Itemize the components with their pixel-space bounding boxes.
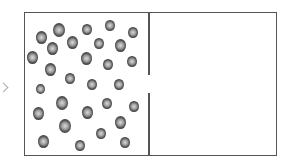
- gas-particle: [103, 59, 113, 71]
- gas-particle: [114, 79, 124, 91]
- gas-particle: [120, 137, 130, 149]
- gas-particle: [47, 42, 58, 55]
- gas-particle: [27, 51, 38, 64]
- gas-particle: [38, 135, 49, 148]
- gas-particle: [82, 106, 93, 119]
- gas-particle: [65, 73, 75, 85]
- gas-particle: [75, 140, 85, 152]
- gas-particle: [96, 128, 106, 140]
- gas-particle: [127, 56, 137, 68]
- gas-particle: [67, 36, 78, 49]
- gas-particle: [33, 107, 44, 120]
- gas-particle: [36, 31, 47, 44]
- gas-particle: [115, 116, 126, 129]
- arrow-left-icon: [0, 83, 8, 93]
- gas-particle: [115, 39, 126, 52]
- gas-particle: [105, 20, 115, 32]
- gas-particle: [82, 24, 92, 36]
- gas-particle: [45, 63, 56, 76]
- partition-upper: [148, 12, 150, 75]
- gas-particle: [129, 101, 139, 113]
- gas-particle: [81, 52, 92, 65]
- gas-particle: [128, 27, 138, 39]
- gas-particle: [102, 98, 112, 110]
- gas-particle: [87, 79, 97, 91]
- gas-particle: [94, 38, 104, 50]
- gas-particle: [36, 84, 45, 94]
- partition-lower: [148, 93, 150, 156]
